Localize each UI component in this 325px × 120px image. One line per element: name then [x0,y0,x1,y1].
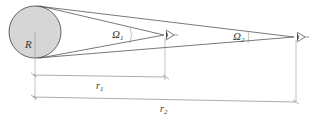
dimension-line-r2 [33,97,296,102]
angle-arc-2 [248,31,249,43]
dimension-label-r2: r2 [160,103,168,116]
radius-label: R [24,38,32,50]
dimension-line-r1 [33,75,165,77]
eye-icon [297,32,309,42]
solid-angle-diagram: R Ω1 Ω2 r1 r2 [0,0,325,120]
tangent-line-2-bottom [37,37,294,58]
dimension-label-r1: r1 [96,80,103,93]
tangent-line-2-top [37,6,294,37]
eye-icon [166,30,178,40]
angle-label-2: Ω2 [233,30,245,44]
angle-arc-1 [130,27,132,43]
angle-label-1: Ω1 [112,28,123,42]
